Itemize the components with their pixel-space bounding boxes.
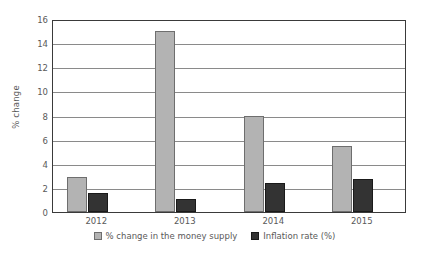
gridline [53, 44, 405, 45]
y-axis-tick-label: 8 [22, 112, 48, 122]
bar [155, 31, 175, 212]
gridline [53, 117, 405, 118]
gridline [53, 20, 405, 21]
bar [176, 199, 196, 212]
bar [353, 179, 373, 212]
chart-legend: % change in the money supplyInflation ra… [0, 231, 429, 241]
y-axis-tick-label: 6 [22, 136, 48, 146]
bar-chart: % change 0246810121416 2012201320142015 … [0, 0, 429, 259]
legend-entry[interactable]: Inflation rate (%) [251, 231, 335, 241]
y-axis-tick-label: 0 [22, 208, 48, 218]
y-axis-title: % change [8, 0, 24, 213]
y-axis-tick-label: 4 [22, 160, 48, 170]
y-axis-tick-label: 10 [22, 87, 48, 97]
y-axis-tick-label: 2 [22, 184, 48, 194]
y-axis-tick-label: 14 [22, 39, 48, 49]
legend-swatch-icon [94, 232, 102, 240]
y-axis-tick-label: 12 [22, 63, 48, 73]
y-axis-title-label: % change [11, 85, 21, 129]
bar [88, 193, 108, 212]
plot-area [52, 20, 406, 213]
gridline [53, 141, 405, 142]
bar [332, 146, 352, 212]
bar [67, 177, 87, 212]
x-axis-tick-label: 2012 [85, 216, 107, 226]
x-axis-tick-label: 2014 [262, 216, 284, 226]
bar [265, 183, 285, 212]
bar [244, 116, 264, 212]
x-axis-tick-label: 2013 [174, 216, 196, 226]
legend-swatch-icon [251, 232, 259, 240]
gridline [53, 92, 405, 93]
x-axis-tick-label: 2015 [351, 216, 373, 226]
y-axis-tick-label: 16 [22, 15, 48, 25]
gridline [53, 68, 405, 69]
legend-entry[interactable]: % change in the money supply [94, 231, 238, 241]
legend-label: Inflation rate (%) [263, 231, 335, 241]
legend-label: % change in the money supply [106, 231, 238, 241]
